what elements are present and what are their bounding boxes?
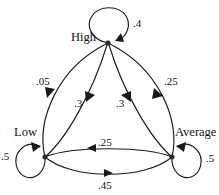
weight-label-low-to-high-inner: .3 bbox=[74, 98, 82, 109]
edge-low-to-high-inner-arrowhead bbox=[85, 91, 95, 102]
self-loop-average bbox=[172, 142, 201, 178]
edge-low-to-average-bottom-arrowhead bbox=[104, 169, 113, 177]
edge-average-to-low-bottom-path bbox=[45, 149, 172, 157]
self-loop-average-path bbox=[172, 144, 201, 177]
edge-low-to-average-bottom bbox=[45, 157, 172, 177]
node-label-high: High bbox=[71, 31, 96, 44]
markov-chain-diagram: High Low Average .4 .5 .5 .05 .3 .3 .25 … bbox=[0, 0, 219, 195]
node-dot-high[interactable] bbox=[106, 41, 111, 46]
self-loop-low-path bbox=[16, 144, 45, 177]
node-dot-average[interactable] bbox=[170, 155, 175, 160]
weight-label-high-self: .4 bbox=[133, 18, 141, 29]
weight-label-average-self: .5 bbox=[206, 153, 214, 164]
self-loop-low bbox=[16, 142, 45, 178]
self-loop-average-arrowhead bbox=[176, 142, 186, 152]
edge-average-to-low-bottom-arrowhead bbox=[87, 144, 96, 152]
self-loop-low-arrowhead bbox=[31, 142, 41, 152]
weight-label-average-to-low-bottom: .25 bbox=[98, 137, 112, 148]
weight-label-low-to-average-bottom: .45 bbox=[98, 180, 112, 191]
node-label-low: Low bbox=[14, 126, 37, 139]
weight-label-high-to-average-outer: .25 bbox=[164, 76, 178, 87]
weight-label-average-to-high-inner: .3 bbox=[116, 98, 124, 109]
node-label-average: Average bbox=[175, 126, 216, 139]
graph-canvas bbox=[0, 0, 219, 195]
weight-label-low-self: .5 bbox=[1, 151, 9, 162]
node-dot-low[interactable] bbox=[43, 155, 48, 160]
weight-label-low-to-high-outer: .05 bbox=[36, 76, 50, 87]
